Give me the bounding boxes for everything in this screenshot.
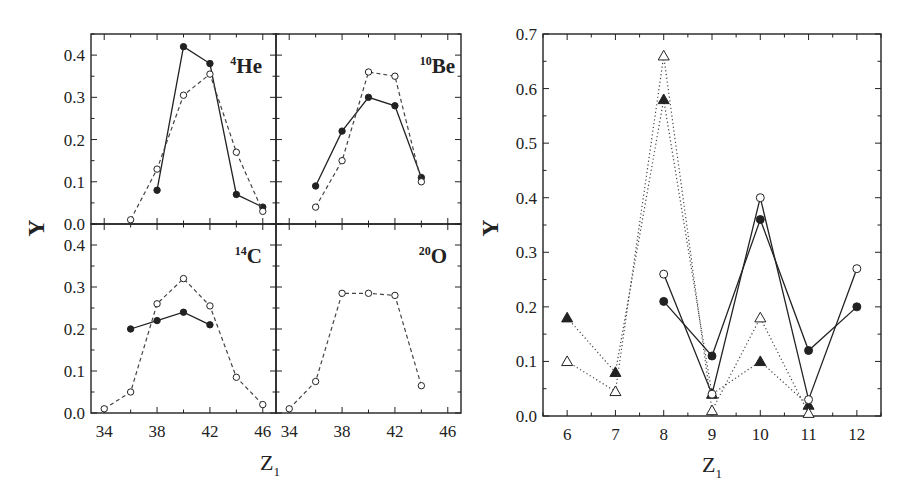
data-point-open-circle [339, 290, 345, 296]
x-tick-label: 11 [800, 425, 816, 444]
panel-4He: 0.00.10.20.30.44He [64, 34, 276, 234]
data-point-filled-circle [708, 352, 716, 360]
data-point-open-triangle [658, 50, 669, 60]
panel-right: 67891011120.00.10.20.30.40.50.60.7 [516, 25, 881, 444]
data-point-filled-circle [180, 43, 186, 49]
panel-label: 10Be [420, 54, 455, 78]
data-point-open-circle [154, 166, 160, 172]
data-point-open-circle [708, 390, 716, 398]
data-point-filled-circle [233, 191, 239, 197]
y-tick-label: 0.2 [64, 320, 85, 339]
panel-label: 20O [419, 244, 447, 268]
right-y-axis-label: Y [477, 219, 503, 236]
series-line [567, 56, 808, 413]
data-point-filled-triangle [755, 356, 766, 366]
x-tick-label: 7 [611, 425, 620, 444]
data-point-open-circle [805, 396, 813, 404]
panel-label: 4He [230, 54, 262, 78]
data-point-open-circle [312, 204, 318, 210]
data-point-filled-triangle [658, 94, 669, 104]
x-tick-label: 46 [254, 422, 271, 441]
x-tick-label: 38 [334, 422, 351, 441]
y-tick-label: 0.1 [64, 173, 85, 192]
y-tick-label: 0.0 [64, 404, 85, 423]
right-x-axis-label: Z1 [702, 452, 722, 481]
y-tick-label: 0.4 [64, 236, 86, 255]
data-point-open-circle [392, 292, 398, 298]
series-filled-circles-solid [312, 94, 424, 189]
panel-20O: 3438424620O [276, 224, 461, 441]
data-point-filled-circle [756, 216, 764, 224]
y-tick-label: 0.2 [64, 131, 85, 150]
data-point-filled-triangle [562, 312, 573, 322]
right-chart: 67891011120.00.10.20.30.40.50.60.7 [516, 25, 881, 444]
series-line [664, 198, 857, 400]
data-point-filled-circle [853, 303, 861, 311]
y-tick-label: 0.4 [64, 46, 86, 65]
series-line [131, 312, 210, 329]
x-tick-label: 9 [708, 425, 717, 444]
series-line [104, 279, 263, 409]
data-point-open-circle [392, 73, 398, 79]
data-point-open-triangle [707, 405, 718, 415]
data-point-open-circle [207, 303, 213, 309]
data-point-open-circle [180, 92, 186, 98]
data-point-filled-circle [805, 347, 813, 355]
data-point-filled-circle [154, 187, 160, 193]
y-tick-label: 0.0 [64, 215, 85, 234]
x-tick-label: 6 [563, 425, 572, 444]
data-point-filled-circle [127, 326, 133, 332]
data-point-open-circle [660, 270, 668, 278]
data-point-open-circle [180, 275, 186, 281]
data-point-open-circle [365, 290, 371, 296]
data-point-filled-circle [207, 60, 213, 66]
data-point-filled-circle [154, 317, 160, 323]
panel-label: 14C [235, 244, 262, 268]
series-open-circles-dashed [286, 290, 425, 412]
series-open-circles-dashed [127, 71, 266, 223]
panel-10Be: 10Be [276, 34, 461, 224]
data-point-open-circle [286, 406, 292, 412]
data-point-open-circle [365, 69, 371, 75]
data-point-open-circle [260, 208, 266, 214]
left-panel-grid: 0.00.10.20.30.44He10Be343842460.00.10.20… [64, 34, 461, 441]
data-point-open-circle [233, 374, 239, 380]
data-point-open-circle [853, 265, 861, 273]
series-line [316, 72, 422, 207]
left-x-axis-label: Z1 [260, 450, 280, 479]
data-point-open-circle [207, 71, 213, 77]
series-line [664, 220, 857, 356]
y-tick-label: 0.3 [64, 278, 85, 297]
x-tick-label: 42 [201, 422, 218, 441]
data-point-filled-circle [180, 309, 186, 315]
data-point-filled-circle [365, 94, 371, 100]
y-tick-label: 0.7 [516, 25, 538, 44]
data-point-filled-circle [312, 183, 318, 189]
y-tick-label: 0.1 [64, 362, 85, 381]
x-tick-label: 8 [659, 425, 668, 444]
x-tick-label: 38 [149, 422, 166, 441]
y-tick-label: 0.5 [516, 134, 537, 153]
y-tick-label: 0.3 [516, 243, 537, 262]
x-tick-label: 10 [752, 425, 769, 444]
series-open-circles-dashed [101, 275, 266, 412]
data-point-open-circle [418, 383, 424, 389]
x-tick-label: 34 [281, 422, 299, 441]
series-filled-triangles-dotted [562, 94, 814, 409]
y-tick-label: 0.6 [516, 80, 537, 99]
panel-14C: 343842460.00.10.20.30.414C [64, 224, 276, 441]
data-point-open-circle [418, 179, 424, 185]
data-point-open-circle [260, 401, 266, 407]
data-point-filled-circle [392, 103, 398, 109]
y-tick-label: 0.2 [516, 298, 537, 317]
data-point-filled-circle [660, 297, 668, 305]
x-tick-label: 34 [96, 422, 114, 441]
data-point-open-circle [756, 194, 764, 202]
x-tick-label: 42 [386, 422, 403, 441]
y-tick-label: 0.1 [516, 352, 537, 371]
x-tick-label: 12 [848, 425, 865, 444]
series-line [316, 97, 422, 186]
data-point-open-circle [312, 378, 318, 384]
data-point-open-circle [233, 149, 239, 155]
data-point-open-triangle [755, 312, 766, 322]
